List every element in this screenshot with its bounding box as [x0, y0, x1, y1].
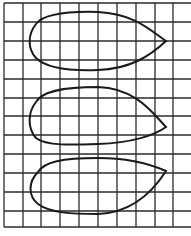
paper-background [0, 0, 191, 236]
grid-diagram [0, 0, 191, 236]
grid-drawing [0, 0, 191, 236]
